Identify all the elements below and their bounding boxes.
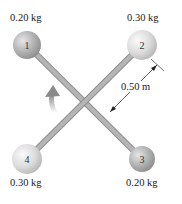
mass-4-ball: 4 [12,144,42,174]
mass-2-label: 0.30 kg [127,12,159,23]
diagram-canvas: 1 2 3 4 [0,0,182,204]
mass-2-ball: 2 [127,30,157,60]
dimension-label: 0.50 m [120,81,151,92]
mass-1-label: 0.20 kg [10,12,42,23]
mass-4-number: 4 [25,154,30,165]
mass-1-number: 1 [25,40,30,51]
mass-4-label: 0.30 kg [10,177,42,188]
mass-3-ball: 3 [129,146,155,172]
mass-2-number: 2 [140,40,145,51]
mass-1-ball: 1 [13,31,41,59]
rotation-arrow-icon [45,85,60,113]
mass-3-number: 3 [140,154,145,165]
mass-3-label: 0.20 kg [126,177,158,188]
